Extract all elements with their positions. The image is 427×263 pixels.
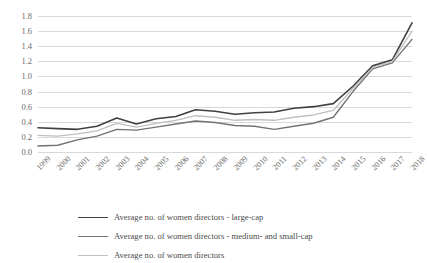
y-axis-tick-label: 0.4: [21, 118, 32, 127]
x-axis: 1999200020012002200320042005200620072008…: [38, 155, 412, 199]
y-axis-tick-label: 1.0: [21, 72, 32, 81]
y-axis-tick-label: 0.2: [21, 133, 32, 142]
y-axis-tick-label: 1.8: [21, 12, 32, 21]
gridline: [38, 152, 412, 153]
y-axis-tick-label: 0.6: [21, 102, 32, 111]
legend-item-label: Average no. of women directors - medium-…: [114, 232, 313, 241]
y-axis-tick-label: 1.4: [21, 42, 32, 51]
legend-item-1[interactable]: Average no. of women directors - large-c…: [78, 211, 263, 223]
y-axis: 0.00.20.40.60.81.01.21.41.61.8: [0, 0, 36, 152]
legend-item-2[interactable]: Average no. of women directors - medium-…: [78, 230, 313, 242]
legend-swatch-line: [78, 217, 108, 218]
y-axis-tick-label: 1.2: [21, 57, 32, 66]
legend-item-label: Average no. of women directors: [114, 251, 224, 260]
legend-item-label: Average no. of women directors - large-c…: [114, 213, 263, 222]
legend-item-3[interactable]: Average no. of women directors: [78, 249, 224, 261]
y-axis-tick-label: 0.0: [21, 148, 32, 157]
chart-legend: Average no. of women directors - large-c…: [0, 205, 419, 263]
y-axis-tick-label: 1.6: [21, 27, 32, 36]
series-line-2: [38, 39, 412, 146]
series-line-1: [38, 23, 412, 130]
plot-area: [38, 16, 412, 152]
legend-swatch-line: [78, 255, 108, 256]
legend-swatch-line: [78, 236, 108, 237]
y-axis-tick-label: 0.8: [21, 87, 32, 96]
series-layer: [38, 16, 412, 152]
